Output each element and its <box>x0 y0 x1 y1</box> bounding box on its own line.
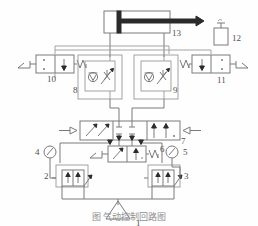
label-item-6: 6 <box>160 145 165 154</box>
label-item-8: 8 <box>73 86 78 95</box>
regulator-2 <box>52 165 92 187</box>
pneumatic-circuit-diagram: .ln { stroke:#7a7a7a; stroke-width:1; fi… <box>0 0 258 226</box>
pressure-gauge-5 <box>166 146 178 163</box>
label-item-11: 11 <box>217 76 226 85</box>
pressure-gauge-4 <box>44 146 56 163</box>
lever-valve-6 <box>90 146 158 162</box>
label-item-2: 2 <box>44 172 49 181</box>
regulator-3 <box>144 165 182 187</box>
label-item-9: 9 <box>173 86 178 95</box>
main-valve-7 <box>59 121 201 146</box>
flow-control-valve-8 <box>78 55 122 99</box>
valve-11 <box>180 55 248 73</box>
label-item-3: 3 <box>184 172 189 181</box>
figure-caption: 图 气动控制回路图 <box>0 210 258 223</box>
circuit-schematic: .ln { stroke:#7a7a7a; stroke-width:1; fi… <box>0 0 258 226</box>
label-item-7: 7 <box>181 137 186 146</box>
reservoir-12 <box>214 20 228 45</box>
label-item-13: 13 <box>172 29 181 38</box>
pilot-signal-lines <box>55 46 211 54</box>
label-item-4: 4 <box>35 148 40 157</box>
flow-control-valve-9 <box>134 55 178 99</box>
label-item-12: 12 <box>232 34 241 43</box>
cylinder-to-valve-lines <box>110 99 164 121</box>
label-item-5: 5 <box>183 148 188 157</box>
label-item-10: 10 <box>47 75 56 84</box>
